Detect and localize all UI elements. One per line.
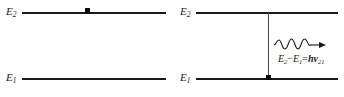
energy-level-line-e2-right [196,12,338,14]
energy-level-line-e1-left [22,78,166,80]
downward-transition-line [268,13,269,78]
electron-marker [266,75,271,80]
electron-marker [85,8,90,13]
photon-energy-equation: E2−E1=hν21 [278,54,325,64]
wavy-arrow-icon [272,36,328,52]
level-label-e1-left: E1 [6,72,16,83]
level-label-e2-right: E2 [180,6,190,17]
emission-panel: E2 E2−E1=hν21 E1 [172,0,344,97]
figure-canvas: E2 E1 E2 E2−E1=hν21 E1 [0,0,344,97]
level-label-e2-left: E2 [6,6,16,17]
energy-level-line-e2-left [22,12,166,14]
excited-state-panel: E2 E1 [0,0,172,97]
level-label-e1-right: E1 [180,72,190,83]
